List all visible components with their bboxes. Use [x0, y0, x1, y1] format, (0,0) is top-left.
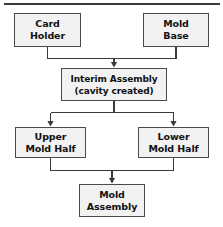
edge-card-holder-to-interim	[48, 47, 115, 59]
node-mold-assembly-line1: Mold	[99, 189, 125, 201]
node-card-holder-line1: Card	[35, 18, 59, 30]
node-mold-base-line2: Base	[163, 30, 188, 42]
node-interim-assembly-line2: (cavity created)	[74, 85, 153, 97]
node-lower-mold-half-line2: Mold Half	[148, 143, 198, 155]
top-divider-rule	[4, 3, 220, 5]
node-upper-mold-half[interactable]: Upper Mold Half	[15, 127, 86, 158]
node-lower-mold-half-line1: Lower	[158, 131, 190, 143]
node-mold-assembly[interactable]: Mold Assembly	[79, 184, 145, 217]
edge-mold-base-to-interim	[114, 47, 176, 59]
node-interim-assembly[interactable]: Interim Assembly (cavity created)	[61, 68, 167, 101]
flowchart-diagram: Card Holder Mold Base Interim Assembly (…	[0, 0, 223, 227]
node-card-holder[interactable]: Card Holder	[14, 13, 81, 47]
node-lower-mold-half[interactable]: Lower Mold Half	[138, 127, 209, 158]
node-mold-assembly-line2: Assembly	[87, 201, 137, 213]
edge-lower-to-merge	[112, 158, 174, 171]
edge-upper-to-merge	[51, 158, 113, 171]
node-upper-mold-half-line2: Mold Half	[25, 143, 75, 155]
node-interim-assembly-line1: Interim Assembly	[70, 73, 157, 85]
node-mold-base[interactable]: Mold Base	[143, 13, 209, 47]
node-mold-base-line1: Mold	[163, 18, 189, 30]
node-card-holder-line2: Holder	[30, 30, 65, 42]
node-upper-mold-half-line1: Upper	[35, 131, 67, 143]
